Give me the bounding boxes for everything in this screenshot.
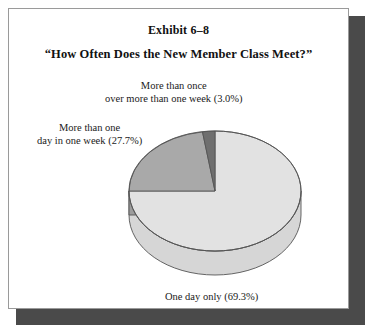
label-more-than-one-day-line2: day in one week (27.7%) <box>37 134 142 147</box>
pie-chart: More than once over more than one week (… <box>9 9 349 309</box>
label-more-than-once: More than once over more than one week (… <box>105 79 243 105</box>
label-one-day-only: One day only (69.3%) <box>165 290 258 303</box>
exhibit-frame: Exhibit 6–8 “How Often Does the New Memb… <box>8 8 349 309</box>
exhibit-figure: Exhibit 6–8 “How Often Does the New Memb… <box>0 0 373 333</box>
label-more-than-one-day-line1: More than one <box>37 121 142 134</box>
label-more-than-once-line1: More than once <box>105 79 243 92</box>
label-more-than-once-line2: over more than one week (3.0%) <box>105 92 243 105</box>
label-more-than-one-day: More than one day in one week (27.7%) <box>37 121 142 147</box>
pie-chart-svg <box>9 9 349 309</box>
